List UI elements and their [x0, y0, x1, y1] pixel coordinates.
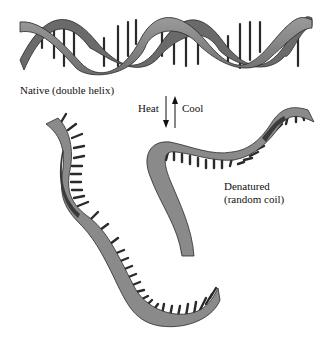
transition-arrows: [163, 96, 178, 128]
denatured-label: Denatured: [224, 180, 270, 193]
heat-arrow-down-icon: [163, 96, 169, 128]
native-double-helix-label: Native (double helix): [20, 84, 114, 97]
random-coil-label: (random coil): [224, 193, 284, 206]
heat-label: Heat: [138, 102, 159, 115]
cool-arrow-up-icon: [172, 96, 178, 128]
single-strand-left: [46, 114, 220, 327]
cool-label: Cool: [182, 102, 203, 115]
diagram-drawing: [0, 0, 324, 340]
dna-denaturation-diagram: Native (double helix) Heat Cool Denature…: [0, 0, 324, 340]
double-helix: [20, 17, 312, 75]
